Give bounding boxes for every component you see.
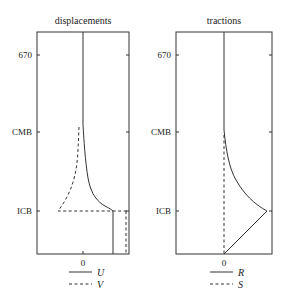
y-tick-cmb: CMB [151, 127, 171, 137]
panel-tractions: tractions 670 CMB ICB 0 R S [151, 15, 272, 290]
series-R [224, 32, 267, 254]
y-tick-cmb: CMB [12, 127, 32, 137]
y-tick-670: 670 [19, 50, 33, 60]
panel-displacements: displacements 670 CMB ICB 0 U V [12, 15, 129, 290]
panel-title: tractions [207, 15, 242, 26]
y-tick-670: 670 [158, 50, 172, 60]
legend-label-V: V [97, 279, 105, 290]
x-tick-zero: 0 [81, 258, 86, 268]
legend-label-U: U [97, 267, 105, 278]
figure: displacements 670 CMB ICB 0 U V traction… [0, 0, 285, 307]
y-tick-icb: ICB [17, 206, 32, 216]
y-tick-icb: ICB [156, 206, 171, 216]
x-tick-zero: 0 [222, 258, 227, 268]
legend-label-S: S [238, 279, 243, 290]
panel-title: displacements [55, 15, 112, 26]
legend-label-R: R [237, 267, 244, 278]
series-U [83, 32, 113, 254]
series-V [58, 127, 129, 254]
